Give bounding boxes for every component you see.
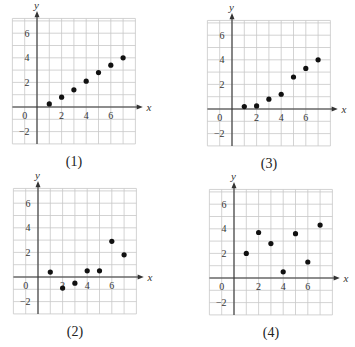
data-point bbox=[254, 103, 259, 108]
data-point bbox=[291, 74, 296, 79]
x-axis-arrow-icon bbox=[138, 275, 144, 280]
x-tick-label: 4 bbox=[279, 112, 284, 123]
x-tick-label: 0 bbox=[23, 280, 28, 291]
y-tick-label: 4 bbox=[220, 54, 225, 65]
panel-caption: (1) bbox=[66, 154, 83, 170]
y-tick-label: 6 bbox=[220, 30, 225, 41]
data-point bbox=[303, 66, 308, 71]
y-tick-label: 2 bbox=[26, 247, 31, 258]
data-point bbox=[108, 63, 113, 68]
data-point bbox=[318, 223, 323, 228]
data-point bbox=[122, 252, 127, 257]
data-point bbox=[97, 268, 102, 273]
y-tick-label: −2 bbox=[214, 128, 225, 139]
x-tick-label: 0 bbox=[217, 112, 222, 123]
scatter-panel-2: xy0246−2246(2) bbox=[13, 169, 152, 340]
grid bbox=[13, 188, 136, 313]
x-axis-arrow-icon bbox=[334, 276, 340, 281]
data-point bbox=[59, 95, 64, 100]
y-tick-label: 4 bbox=[222, 223, 227, 234]
y-tick-label: 6 bbox=[26, 198, 31, 209]
panel-caption: (3) bbox=[261, 156, 278, 172]
y-axis-arrow-icon bbox=[232, 182, 237, 188]
y-tick-label: 6 bbox=[222, 199, 227, 210]
data-point bbox=[121, 55, 126, 60]
data-point bbox=[305, 259, 310, 264]
data-point bbox=[96, 70, 101, 75]
data-point bbox=[266, 97, 271, 102]
x-axis-label: x bbox=[145, 101, 151, 113]
scatter-plot-figure: xy0246−2246(1)xy0246−2246(2)xy0246−2246(… bbox=[0, 0, 355, 347]
x-axis-label: x bbox=[340, 103, 346, 115]
y-axis-label: y bbox=[228, 1, 234, 13]
x-tick-label: 2 bbox=[254, 112, 259, 123]
scatter-panel-1: xy0246−2246(1) bbox=[12, 0, 151, 170]
y-axis-arrow-icon bbox=[230, 13, 235, 19]
x-axis-arrow-icon bbox=[332, 107, 338, 112]
x-axis-label: x bbox=[146, 271, 152, 283]
y-axis-arrow-icon bbox=[35, 11, 40, 17]
y-tick-label: 2 bbox=[222, 248, 227, 259]
data-point bbox=[85, 268, 90, 273]
data-point bbox=[47, 101, 52, 106]
x-tick-label: 4 bbox=[84, 110, 89, 121]
x-axis-label: x bbox=[342, 272, 348, 284]
y-tick-label: 2 bbox=[25, 77, 30, 88]
scatter-panel-3: xy0246−2246(3) bbox=[207, 1, 346, 172]
grid bbox=[209, 189, 332, 314]
x-tick-label: 4 bbox=[85, 280, 90, 291]
x-tick-label: 0 bbox=[219, 281, 224, 292]
data-point bbox=[48, 269, 53, 274]
x-tick-label: 6 bbox=[109, 280, 114, 291]
panel-caption: (4) bbox=[263, 325, 280, 341]
data-point bbox=[71, 87, 76, 92]
data-point bbox=[293, 231, 298, 236]
grid bbox=[12, 18, 135, 143]
y-tick-label: 4 bbox=[26, 222, 31, 233]
x-tick-label: 6 bbox=[303, 112, 308, 123]
x-tick-label: 4 bbox=[281, 281, 286, 292]
y-axis-arrow-icon bbox=[36, 181, 41, 187]
data-point bbox=[279, 92, 284, 97]
y-tick-label: 6 bbox=[25, 28, 30, 39]
data-point bbox=[72, 281, 77, 286]
data-point bbox=[84, 79, 89, 84]
data-point bbox=[281, 269, 286, 274]
x-axis-arrow-icon bbox=[137, 105, 143, 110]
y-tick-label: 4 bbox=[25, 52, 30, 63]
data-point bbox=[268, 241, 273, 246]
y-tick-label: −2 bbox=[20, 296, 31, 307]
grid bbox=[207, 20, 330, 145]
y-axis-label: y bbox=[230, 170, 236, 182]
x-tick-label: 6 bbox=[108, 110, 113, 121]
x-tick-label: 2 bbox=[256, 281, 261, 292]
data-point bbox=[316, 57, 321, 62]
x-tick-label: 0 bbox=[22, 110, 27, 121]
y-tick-label: 2 bbox=[220, 79, 225, 90]
x-tick-label: 6 bbox=[305, 281, 310, 292]
y-axis-label: y bbox=[33, 0, 39, 11]
data-point bbox=[244, 251, 249, 256]
data-point bbox=[242, 104, 247, 109]
data-point bbox=[60, 285, 65, 290]
y-axis-label: y bbox=[34, 169, 40, 181]
data-point bbox=[109, 239, 114, 244]
panel-caption: (2) bbox=[67, 324, 84, 340]
y-tick-label: −2 bbox=[216, 297, 227, 308]
x-tick-label: 2 bbox=[59, 110, 64, 121]
data-point bbox=[256, 230, 261, 235]
y-tick-label: −2 bbox=[19, 126, 30, 137]
scatter-panel-4: xy0246−2246(4) bbox=[209, 170, 348, 341]
